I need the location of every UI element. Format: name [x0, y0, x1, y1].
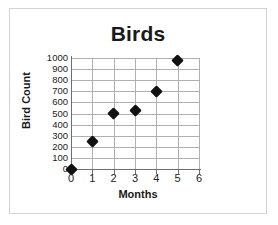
y-axis-tick-label: 700 [52, 87, 68, 97]
gridline-vertical [199, 58, 200, 169]
y-axis-tick-label: 500 [52, 109, 68, 119]
y-axis-tick-label: 1000 [47, 53, 68, 63]
y-axis-tick-labels: 01002003004005006007008009001000 [24, 58, 68, 169]
y-axis-line [71, 56, 72, 171]
x-axis-tick-label: 3 [132, 173, 138, 184]
data-point [171, 54, 184, 67]
data-point [129, 104, 142, 117]
y-axis-tick-label: 600 [52, 98, 68, 108]
gridline-vertical [156, 58, 157, 169]
y-axis-tick-label: 900 [52, 64, 68, 74]
plot-area [71, 58, 199, 169]
y-axis-tick-label: 100 [52, 153, 68, 163]
chart-card: Birds Bird Count 01002003004005006007008… [9, 8, 267, 214]
y-axis-tick-label: 300 [52, 131, 68, 141]
x-axis-tick-label: 1 [89, 173, 95, 184]
data-point [150, 85, 163, 98]
x-axis-title: Months [10, 189, 266, 200]
y-axis-tick-label: 400 [52, 120, 68, 130]
x-axis-tick-label: 6 [196, 173, 202, 184]
x-axis-tick-label: 5 [175, 173, 181, 184]
chart-title: Birds [10, 23, 266, 44]
data-point [107, 107, 120, 120]
data-point [86, 135, 99, 148]
x-axis-tick-labels: 0123456 [71, 173, 199, 187]
x-axis-tick-label: 0 [68, 173, 74, 184]
y-axis-tick-label: 800 [52, 75, 68, 85]
gridline-vertical [178, 58, 179, 169]
gridline-vertical [92, 58, 93, 169]
x-axis-tick-label: 2 [111, 173, 117, 184]
x-axis-tick-label: 4 [153, 173, 159, 184]
y-axis-tick-label: 200 [52, 142, 68, 152]
